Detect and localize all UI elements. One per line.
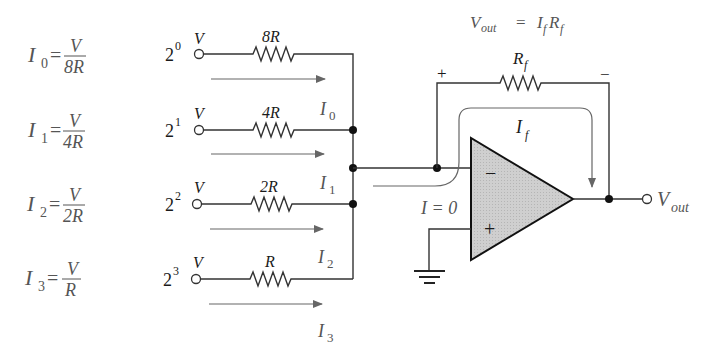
eq-sub: 0 bbox=[41, 56, 48, 71]
resistor-label: 8R bbox=[262, 28, 280, 45]
weight-base: 2 bbox=[165, 195, 174, 215]
equation-i1: I 1 = V 4R bbox=[27, 111, 85, 152]
ground-wire bbox=[429, 229, 471, 271]
ground-icon bbox=[414, 271, 445, 283]
equation-i3: I 3 = V R bbox=[24, 259, 81, 300]
resistor-label: 2R bbox=[260, 178, 278, 195]
current-sub: 3 bbox=[327, 330, 334, 345]
input-terminal bbox=[192, 275, 201, 284]
input-terminal bbox=[195, 50, 204, 59]
eq-lhs: I bbox=[26, 191, 36, 216]
input-voltage-label: V bbox=[194, 30, 206, 47]
eq-sub: 3 bbox=[38, 279, 45, 294]
weight-base: 2 bbox=[163, 270, 172, 290]
equation-i0: I 0 = V 8R bbox=[27, 36, 86, 77]
output-label-sub: out bbox=[671, 200, 690, 215]
formula-vout-sub: out bbox=[481, 21, 497, 35]
current-label: I bbox=[319, 173, 327, 193]
input-terminal bbox=[195, 126, 204, 135]
eq-sub: 1 bbox=[41, 131, 48, 146]
rf-label-sub: f bbox=[524, 58, 529, 72]
eq-equals: = bbox=[50, 119, 61, 141]
formula-equals: = bbox=[516, 13, 526, 32]
if-label-sub: f bbox=[525, 128, 530, 142]
op-amp: − + I = 0 bbox=[420, 138, 573, 260]
output-label: V bbox=[657, 188, 672, 210]
input-current-label: I = 0 bbox=[420, 198, 457, 218]
wire bbox=[202, 197, 354, 211]
eq-denominator: 2R bbox=[63, 206, 83, 226]
current-sub: 1 bbox=[329, 182, 336, 197]
output-terminal bbox=[643, 195, 652, 204]
inverting-input-sign: − bbox=[485, 162, 496, 184]
eq-equals: = bbox=[50, 44, 61, 66]
eq-equals: = bbox=[47, 267, 58, 289]
eq-denominator: 8R bbox=[64, 57, 84, 77]
weight-exponent: 2 bbox=[175, 189, 181, 203]
resistor-label: R bbox=[264, 253, 275, 270]
current-label: I bbox=[319, 99, 327, 119]
eq-lhs: I bbox=[27, 117, 37, 142]
junction-dot bbox=[349, 126, 357, 134]
eq-lhs: I bbox=[24, 265, 34, 290]
eq-denominator: R bbox=[64, 280, 76, 300]
weight-exponent: 1 bbox=[175, 115, 181, 129]
current-sub: 2 bbox=[327, 256, 334, 271]
input-terminal bbox=[193, 200, 202, 209]
output-junction-dot bbox=[605, 195, 613, 203]
wire bbox=[204, 47, 354, 279]
if-label: I bbox=[515, 117, 523, 137]
binary-weighted-dac-circuit: I 0 = V 8R I 1 = V 4R I 2 = V 2R I 3 = V… bbox=[0, 0, 719, 358]
current-label: I bbox=[317, 321, 325, 341]
weight-exponent: 0 bbox=[175, 39, 181, 53]
weight-base: 2 bbox=[165, 121, 174, 141]
equation-i2: I 2 = V 2R bbox=[26, 185, 85, 226]
eq-sub: 2 bbox=[40, 205, 47, 220]
noninverting-input-sign: + bbox=[484, 218, 495, 240]
rf-minus-sign: − bbox=[600, 65, 610, 84]
junction-dot bbox=[349, 200, 357, 208]
wire bbox=[201, 272, 354, 286]
formula-rf: R bbox=[548, 13, 560, 32]
input-voltage-label: V bbox=[194, 105, 206, 122]
rf-plus-sign: + bbox=[437, 64, 447, 83]
input-voltage-label: V bbox=[193, 254, 205, 271]
wire bbox=[204, 123, 354, 137]
formula-rf-sub: f bbox=[560, 22, 565, 36]
rf-label: R bbox=[512, 49, 524, 68]
input-voltage-label: V bbox=[194, 179, 206, 196]
formula-if-sub: f bbox=[543, 22, 548, 36]
current-sub: 0 bbox=[329, 108, 336, 123]
eq-numerator: V bbox=[69, 111, 82, 131]
op-amp-triangle bbox=[471, 138, 573, 260]
eq-numerator: V bbox=[70, 36, 83, 56]
current-label: I bbox=[317, 247, 325, 267]
input-branch-3: 2 3 V R I 3 bbox=[163, 253, 353, 345]
weight-exponent: 3 bbox=[173, 264, 179, 278]
eq-lhs: I bbox=[27, 42, 37, 67]
eq-numerator: V bbox=[67, 259, 80, 279]
eq-equals: = bbox=[49, 193, 60, 215]
resistor-label: 4R bbox=[262, 104, 280, 121]
eq-denominator: 4R bbox=[63, 132, 83, 152]
weight-base: 2 bbox=[165, 45, 174, 65]
eq-numerator: V bbox=[69, 185, 82, 205]
